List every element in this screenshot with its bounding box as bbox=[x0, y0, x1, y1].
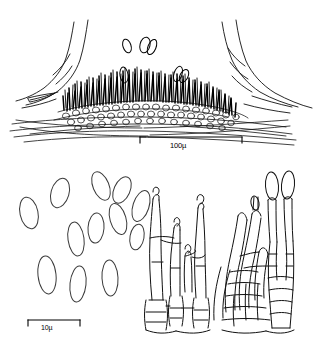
illustration-canvas bbox=[0, 0, 319, 343]
scale-bar-bottom-label: 10µ bbox=[41, 324, 52, 331]
mycological-figure: 100µ 10µ bbox=[0, 0, 319, 343]
figure-background bbox=[0, 0, 319, 343]
scale-bar-top-label: 100µ bbox=[170, 141, 186, 150]
